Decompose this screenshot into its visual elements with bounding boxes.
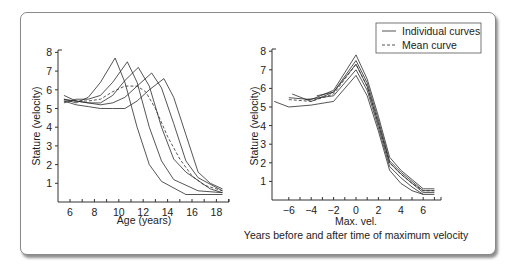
left-chart-age: 12345678681012141618: [46, 46, 229, 218]
y-tick-label: 5: [46, 103, 52, 115]
y-tick-label: 6: [260, 82, 266, 94]
x-tick-label: −4: [305, 204, 317, 216]
axis-lines: [58, 50, 229, 202]
x-tick-label: 18: [211, 206, 223, 218]
y-tick-label: 8: [260, 45, 266, 57]
mean-curve: [289, 64, 435, 191]
y-tick-label: 5: [260, 101, 266, 113]
right-x-axis-title: Max. vel.: [335, 215, 377, 227]
individual-curve: [64, 67, 223, 192]
individual-curve: [292, 61, 434, 191]
legend-individual-label: Individual curves: [402, 25, 480, 37]
x-tick-label: 4: [398, 204, 404, 216]
legend-mean-label: Mean curve: [402, 39, 457, 51]
y-tick-label: 1: [260, 175, 266, 187]
y-tick-label: 3: [260, 138, 266, 150]
left-x-axis-title: Age (years): [117, 214, 171, 226]
y-tick-label: 7: [260, 64, 266, 76]
y-tick-label: 6: [46, 84, 52, 96]
y-tick-label: 4: [260, 120, 266, 132]
legend: Individual curves Mean curve: [376, 23, 481, 53]
y-tick-label: 2: [260, 157, 266, 169]
mean-curve: [64, 86, 223, 191]
right-chart-max-velocity: 12345678−6−4−20246: [260, 45, 441, 216]
figure-canvas: 12345678681012141618 12345678−6−4−20246 …: [0, 0, 512, 271]
right-x-axis-subtitle: Years before and after time of maximum v…: [244, 229, 469, 241]
x-tick-label: −6: [283, 204, 295, 216]
x-tick-label: 8: [91, 206, 97, 218]
right-y-axis-title: Stature (velocity): [248, 87, 260, 166]
individual-curve: [274, 75, 423, 194]
y-tick-label: 4: [46, 121, 52, 133]
y-tick-label: 2: [46, 159, 52, 171]
x-tick-label: 16: [186, 206, 198, 218]
y-tick-label: 3: [46, 140, 52, 152]
individual-curve: [317, 64, 435, 192]
left-y-axis-title: Stature (velocity): [30, 87, 42, 166]
individual-curve: [64, 58, 223, 195]
y-tick-label: 8: [46, 46, 52, 58]
x-tick-label: 6: [420, 204, 426, 216]
x-tick-label: 6: [67, 206, 73, 218]
individual-curve: [64, 79, 223, 189]
y-tick-label: 1: [46, 177, 52, 189]
axis-lines: [272, 49, 441, 200]
y-tick-label: 7: [46, 65, 52, 77]
